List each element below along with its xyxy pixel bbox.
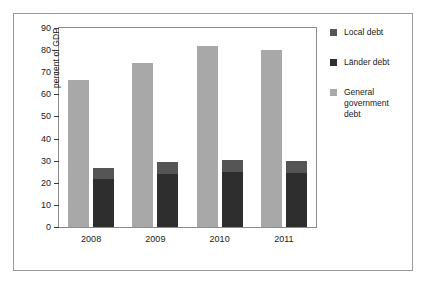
- legend-swatch-icon: [330, 89, 337, 96]
- bar-general-government-debt: [68, 80, 89, 227]
- bar-general-government-debt: [261, 50, 282, 227]
- y-axis-tick-label: 90: [41, 23, 51, 33]
- bar-general-government-debt: [132, 63, 153, 227]
- y-axis-tick-label: 10: [41, 200, 51, 210]
- chart-legend: Local debtLänder debtGeneral government …: [330, 27, 412, 139]
- bar-segment-laender-debt: [93, 179, 114, 227]
- bar-stacked-subnational-debt: [93, 168, 114, 227]
- y-axis-tick-label: 60: [41, 89, 51, 99]
- legend-item: Länder debt: [330, 57, 412, 68]
- bar-group: [59, 28, 123, 227]
- bar-group: [252, 28, 316, 227]
- y-axis-tick: [54, 227, 59, 228]
- bar-segment-local-debt: [286, 161, 307, 172]
- bar-stacked-subnational-debt: [222, 160, 243, 227]
- x-axis-tick-label: 2008: [81, 234, 101, 244]
- legend-item: General government debt: [330, 87, 412, 120]
- bar-group: [123, 28, 187, 227]
- y-axis-tick-label: 20: [41, 178, 51, 188]
- plot-inner: 01020304050607080902008200920102011: [59, 28, 316, 227]
- legend-item: Local debt: [330, 27, 412, 38]
- y-axis-tick-label: 40: [41, 134, 51, 144]
- bar-segment-local-debt: [222, 160, 243, 172]
- y-axis-tick-label: 80: [41, 45, 51, 55]
- bar-segment-laender-debt: [286, 173, 307, 227]
- bar-segment-laender-debt: [222, 172, 243, 227]
- legend-swatch-icon: [330, 59, 337, 66]
- legend-item-label: Länder debt: [344, 57, 412, 68]
- bar-segment-local-debt: [157, 162, 178, 174]
- y-axis-tick-label: 70: [41, 67, 51, 77]
- legend-item-label: Local debt: [344, 27, 412, 38]
- plot-area: percent of GDP 0102030405060708090200820…: [58, 27, 317, 228]
- x-axis-tick-label: 2011: [274, 234, 293, 244]
- y-axis-tick-label: 50: [41, 111, 51, 121]
- bar-stacked-subnational-debt: [157, 162, 178, 227]
- bar-stacked-subnational-debt: [286, 161, 307, 227]
- y-axis-tick-label: 0: [46, 222, 51, 232]
- bar-group: [188, 28, 252, 227]
- bar-segment-laender-debt: [157, 174, 178, 227]
- chart-figure: percent of GDP 0102030405060708090200820…: [0, 0, 428, 290]
- legend-item-label: General government debt: [344, 87, 412, 120]
- x-axis-tick-label: 2009: [145, 234, 165, 244]
- x-axis-tick-label: 2010: [210, 234, 230, 244]
- bar-general-government-debt: [197, 46, 218, 227]
- legend-swatch-icon: [330, 29, 337, 36]
- y-axis-tick-label: 30: [41, 156, 51, 166]
- bar-segment-local-debt: [93, 168, 114, 179]
